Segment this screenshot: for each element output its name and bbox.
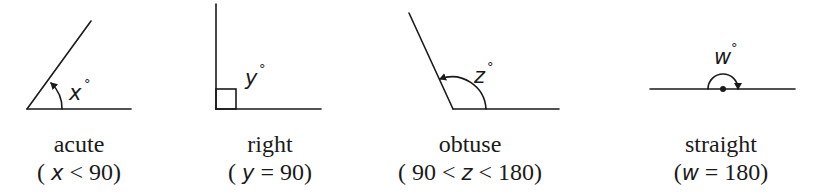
obtuse-angle-figure: z ° — [409, 13, 559, 109]
obtuse-degree-symbol: ° — [487, 59, 494, 74]
straight-name-label: straight — [685, 131, 757, 157]
right-angle-variable: y — [244, 66, 258, 90]
obtuse-condition-label: ( 90 < z < 180) — [398, 159, 542, 185]
acute-name-label: acute — [54, 131, 105, 157]
straight-vertex-dot-icon — [720, 86, 726, 92]
acute-degree-symbol: ° — [84, 76, 91, 91]
right-condition-label: ( y = 90) — [228, 159, 312, 185]
straight-condition-label: (w = 180) — [674, 159, 769, 185]
straight-degree-symbol: ° — [731, 40, 738, 55]
obtuse-angle-variable: z — [473, 64, 486, 88]
right-angle-square-icon — [216, 89, 236, 109]
angle-types-diagram: x ° y ° z ° w ° acute ( x < 90) right ( … — [0, 0, 815, 194]
obtuse-name-label: obtuse — [439, 131, 502, 157]
right-angle-figure: y ° — [216, 4, 321, 109]
straight-angle-figure: w ° — [650, 40, 795, 92]
obtuse-slanted-ray — [409, 13, 453, 109]
straight-angle-variable: w — [714, 45, 732, 69]
right-name-label: right — [247, 131, 293, 157]
acute-angle-variable: x — [68, 81, 82, 105]
right-degree-symbol: ° — [259, 61, 266, 76]
acute-angle-figure: x ° — [27, 21, 131, 109]
acute-condition-label: ( x < 90) — [37, 159, 121, 185]
acute-angle-arc-arrow-icon — [51, 83, 62, 109]
